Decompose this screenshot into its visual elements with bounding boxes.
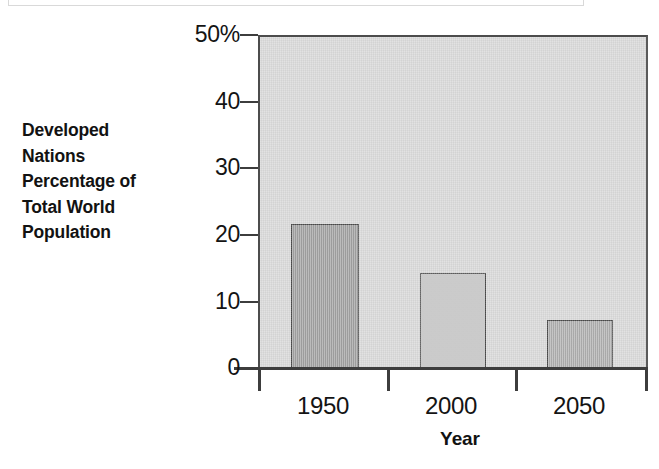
y-tick-label-30: 30 <box>176 154 240 181</box>
bar-2000 <box>420 273 486 368</box>
y-tick-mark-10 <box>240 301 258 303</box>
bar-1950 <box>291 224 359 368</box>
x-tick-label-2050: 2050 <box>519 392 639 420</box>
y-tick-label-20: 20 <box>176 221 240 248</box>
x-axis-line <box>234 367 648 370</box>
plot-area <box>258 35 648 368</box>
y-tick-label-50: 50% <box>176 21 240 48</box>
x-tick-label-2000: 2000 <box>391 392 511 420</box>
y-tick-label-10: 10 <box>176 288 240 315</box>
y-tick-mark-50 <box>240 34 258 36</box>
y-tick-mark-0 <box>240 367 258 369</box>
x-tick-mark-left <box>258 369 261 391</box>
x-tick-label-1950: 1950 <box>263 392 383 420</box>
bar-2050 <box>547 320 613 368</box>
x-tick-mark-right <box>645 369 648 391</box>
x-tick-mark-2 <box>515 369 518 391</box>
y-axis-ticks: 50% 40 30 20 10 0 <box>0 0 240 469</box>
y-tick-mark-40 <box>240 101 258 103</box>
y-tick-label-0: 0 <box>176 354 240 381</box>
y-tick-mark-20 <box>240 234 258 236</box>
y-tick-label-40: 40 <box>176 88 240 115</box>
y-tick-mark-30 <box>240 167 258 169</box>
x-tick-mark-1 <box>387 369 390 391</box>
x-axis-title: Year <box>340 428 580 450</box>
bar-chart-figure: Developed Nations Percentage of Total Wo… <box>0 0 659 469</box>
